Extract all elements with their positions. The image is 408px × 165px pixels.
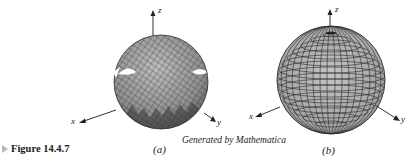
panel-b-caption: (b) [322, 144, 335, 156]
sphere-a [79, 10, 216, 134]
axis-label-x-b: x [249, 111, 253, 121]
sphere-b [255, 9, 400, 134]
credit-line: Generated by Mathematica [182, 135, 286, 145]
figure-label: Figure 14.4.7 [2, 143, 69, 154]
axis-label-x-a: x [71, 116, 75, 126]
axis-label-y-a: y [217, 117, 221, 127]
axis-label-y-b: y [401, 114, 405, 124]
figure-number: Figure 14.4.7 [11, 143, 69, 154]
axis-label-z-a: z [158, 5, 162, 15]
axis-label-z-b: z [335, 4, 339, 14]
triangle-marker-icon [2, 145, 8, 153]
panel-a-caption: (a) [153, 143, 166, 155]
